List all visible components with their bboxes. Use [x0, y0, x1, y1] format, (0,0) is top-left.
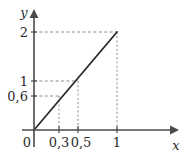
y-axis-label: y	[19, 5, 28, 20]
x-tick-label-05: 0,5	[71, 135, 92, 150]
y-tick-label-06: 0,6	[7, 89, 28, 104]
x-axis-arrow-icon	[170, 126, 179, 135]
y-tick-label-1: 1	[20, 74, 28, 89]
y-tick-label-2: 2	[20, 25, 28, 40]
horizontal-guide-lines	[34, 32, 117, 96]
y-axis-arrow-icon	[30, 9, 39, 18]
line-graph-figure: 2 1 0,6 0 0,3 0,5 1 y x	[0, 0, 190, 162]
x-tick-label-1: 1	[113, 135, 121, 150]
x-tick-label-03: 0,3	[49, 135, 70, 150]
x-axis-label: x	[172, 138, 180, 153]
origin-label: 0	[23, 135, 31, 150]
